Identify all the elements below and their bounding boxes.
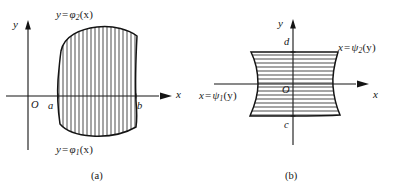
curve-label-right-b-arg: (y) (363, 41, 376, 53)
curve-label-upper-a-arg: (x) (80, 8, 93, 20)
curve-label-upper-a: y=φ2(x) (56, 8, 93, 22)
panel-b-origin-label: O (282, 84, 290, 95)
panel-b-bound-d-label: d (284, 36, 289, 47)
panel-a-y-axis-label: y (13, 18, 18, 30)
panel-b-x-axis-label: x (373, 88, 378, 100)
panel-a-region-outline (58, 27, 137, 137)
panel-a-caption: (a) (91, 170, 103, 181)
curve-label-left-b: x=ψ1(y) (199, 89, 237, 103)
panel-a-x-axis-label: x (176, 88, 181, 100)
panel-a-origin-label: O (31, 99, 39, 110)
curve-label-lower-a-arg: (x) (80, 143, 93, 155)
figure-root: y=φ2(x) y=φ1(x) y x O a b (a) (0, 0, 393, 196)
panel-b-y-axis (290, 19, 296, 145)
panel-b-bound-c-label: c (284, 119, 289, 130)
curve-label-left-b-eq: = (204, 89, 212, 101)
curve-label-right-b-fn: ψ (352, 41, 359, 53)
curve-label-lower-a-eq: = (61, 143, 69, 155)
panel-b-caption: (b) (285, 170, 297, 181)
panel-b-x-axis (214, 81, 369, 88)
panel-b-y-axis-label: y (278, 17, 283, 29)
panel-a-drawing (0, 0, 196, 196)
curve-label-right-b: x=ψ2(y) (338, 41, 376, 55)
panel-a-bound-a-label: a (48, 100, 53, 111)
panel-a-y-axis (25, 20, 31, 150)
curve-label-left-b-arg: (y) (224, 89, 237, 101)
curve-label-right-b-eq: = (343, 41, 351, 53)
panel-a-bound-b-label: b (137, 100, 142, 111)
curve-label-lower-a: y=φ1(x) (56, 143, 93, 157)
panel-a: y=φ2(x) y=φ1(x) y x O a b (a) (0, 0, 196, 196)
curve-label-upper-a-eq: = (61, 8, 69, 20)
panel-b-hatching (241, 55, 348, 115)
curve-label-left-b-fn: ψ (213, 89, 220, 101)
panel-b: x=ψ2(y) x=ψ1(y) y x O d c (b) (196, 0, 393, 196)
